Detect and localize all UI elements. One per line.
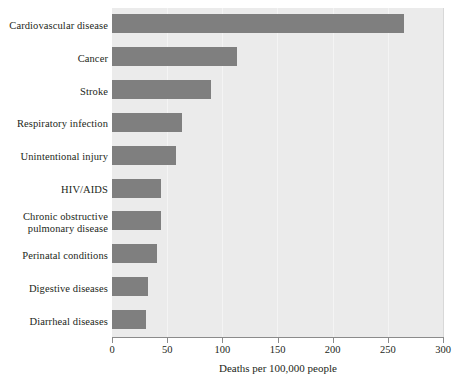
x-tick-mark	[278, 338, 279, 343]
x-tick-label: 300	[423, 344, 463, 356]
bar	[112, 211, 161, 230]
bar-row	[112, 107, 443, 138]
x-tick-mark	[222, 338, 223, 343]
y-axis-label: Diarrheal diseases	[0, 316, 108, 328]
y-axis-label-line: Respiratory infection	[0, 118, 108, 130]
bar-row	[112, 140, 443, 171]
plot-right-edge	[443, 8, 444, 337]
y-axis-label: Digestive diseases	[0, 283, 108, 295]
y-axis-label-line: Cancer	[0, 53, 108, 65]
x-tick-label: 0	[92, 344, 132, 356]
y-axis-labels: Cardiovascular diseaseCancerStrokeRespir…	[0, 8, 108, 337]
x-tick-mark	[112, 338, 113, 343]
bar	[112, 244, 157, 263]
bar-row	[112, 41, 443, 72]
bar	[112, 14, 404, 33]
bar	[112, 310, 146, 329]
bar	[112, 277, 148, 296]
y-axis-label: Perinatal conditions	[0, 250, 108, 262]
x-tick-mark	[443, 338, 444, 343]
bar-row	[112, 74, 443, 105]
y-axis-label: Chronic obstructivepulmonary disease	[0, 211, 108, 234]
bar-row	[112, 238, 443, 269]
x-tick-mark	[167, 338, 168, 343]
bar-row	[112, 271, 443, 302]
y-axis-label-line: Cardiovascular disease	[0, 20, 108, 32]
bars-layer	[112, 8, 443, 337]
y-axis-label-line: Stroke	[0, 86, 108, 98]
y-axis-label: HIV/AIDS	[0, 184, 108, 196]
bar-row	[112, 173, 443, 204]
bar-row	[112, 8, 443, 39]
y-axis-label: Unintentional injury	[0, 151, 108, 163]
y-axis-label-line: pulmonary disease	[0, 223, 108, 235]
x-tick-label: 150	[258, 344, 298, 356]
y-axis-label: Stroke	[0, 86, 108, 98]
bar	[112, 113, 182, 132]
y-axis-label-line: Digestive diseases	[0, 283, 108, 295]
y-axis-label-line: Chronic obstructive	[0, 211, 108, 223]
x-tick-label: 200	[313, 344, 353, 356]
x-tick-mark	[333, 338, 334, 343]
bar-chart: Cardiovascular diseaseCancerStrokeRespir…	[0, 0, 463, 382]
y-axis-label-line: Unintentional injury	[0, 151, 108, 163]
bar	[112, 179, 161, 198]
bar	[112, 80, 211, 99]
x-tick-label: 50	[147, 344, 187, 356]
y-axis-label: Respiratory infection	[0, 118, 108, 130]
y-axis-label: Cardiovascular disease	[0, 20, 108, 32]
x-tick-label: 100	[202, 344, 242, 356]
x-tick-mark	[388, 338, 389, 343]
y-axis-label-line: Diarrheal diseases	[0, 316, 108, 328]
bar	[112, 146, 176, 165]
y-axis-label-line: HIV/AIDS	[0, 184, 108, 196]
x-tick-label: 250	[368, 344, 408, 356]
x-axis-title: Deaths per 100,000 people	[112, 362, 444, 374]
y-axis-label-line: Perinatal conditions	[0, 250, 108, 262]
bar-row	[112, 205, 443, 236]
bar-row	[112, 304, 443, 335]
y-axis-label: Cancer	[0, 53, 108, 65]
bar	[112, 47, 237, 66]
